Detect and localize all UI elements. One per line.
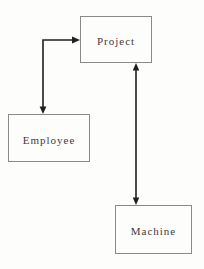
diagram-canvas: Project Employee Machine xyxy=(0,0,204,269)
edge-employee-project-line xyxy=(43,40,76,109)
node-project-label: Project xyxy=(97,32,135,47)
node-employee: Employee xyxy=(8,114,90,162)
node-machine-label: Machine xyxy=(131,222,176,237)
arrowhead-into-project-left xyxy=(72,37,80,44)
node-employee-label: Employee xyxy=(23,131,76,146)
arrowhead-into-employee-top xyxy=(40,107,47,115)
node-project: Project xyxy=(80,16,152,63)
node-machine: Machine xyxy=(115,205,192,254)
edge-employee-project xyxy=(40,37,80,114)
edge-machine-project xyxy=(133,63,140,205)
arrowhead-into-project-bottom xyxy=(133,63,140,71)
arrowhead-into-machine-top xyxy=(133,198,140,206)
